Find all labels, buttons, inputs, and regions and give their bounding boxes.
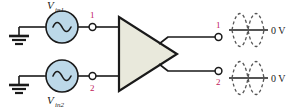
source-vin1-label: V in1 (47, 0, 64, 14)
waveform-out-2-axis-label: 0 V (271, 73, 286, 84)
source-vin2 (46, 60, 78, 92)
ground-bottom-icon (9, 76, 44, 93)
vin1-label-subscript: in1 (55, 6, 64, 14)
amplifier-triangle (119, 17, 177, 91)
vin2-label-main: V (47, 94, 55, 106)
output-terminal-2-node (215, 68, 222, 75)
input-terminal-2-node (89, 73, 96, 80)
input-terminal-2-label: 2 (90, 83, 95, 93)
vin2-label-subscript: in2 (55, 101, 64, 107)
schematic-canvas: 0 V 0 V V in1 V in2 1 2 1 2 (0, 0, 293, 107)
source-vin1 (46, 11, 78, 43)
vin1-label-main: V (47, 0, 55, 11)
output-terminal-1-label: 1 (216, 20, 221, 30)
input-terminal-1-node (89, 24, 96, 31)
waveform-out-1-axis-label: 0 V (271, 25, 286, 36)
differential-amplifier-figure: 0 V 0 V V in1 V in2 1 2 1 2 (0, 0, 293, 107)
wire-amp-to-out2 (159, 64, 215, 71)
wire-amp-to-out1 (159, 37, 215, 44)
waveform-out-1: 0 V (229, 14, 286, 47)
output-terminal-2-label: 2 (216, 77, 221, 87)
source-vin2-label: V in2 (47, 94, 64, 107)
input-terminal-1-label: 1 (90, 10, 95, 20)
ground-top-icon (9, 27, 44, 44)
output-terminal-1-node (215, 34, 222, 41)
waveform-out-2: 0 V (229, 62, 286, 95)
